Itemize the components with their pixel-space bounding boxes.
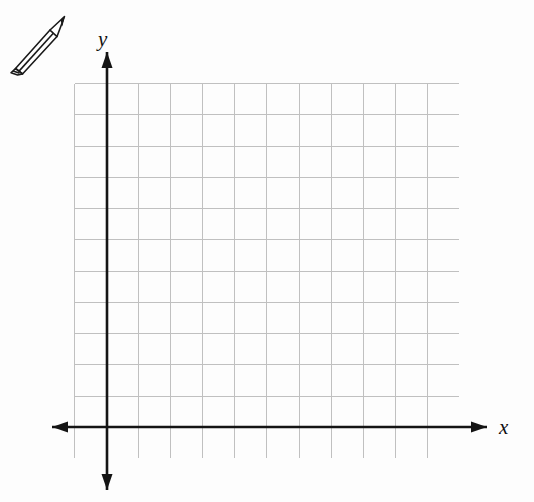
grid-lines — [74, 83, 459, 458]
coordinate-grid — [74, 83, 459, 458]
pencil-icon — [6, 12, 72, 76]
y-axis-label: y — [98, 29, 107, 50]
x-axis-label: x — [499, 417, 508, 438]
worksheet-canvas: y x — [0, 0, 534, 502]
